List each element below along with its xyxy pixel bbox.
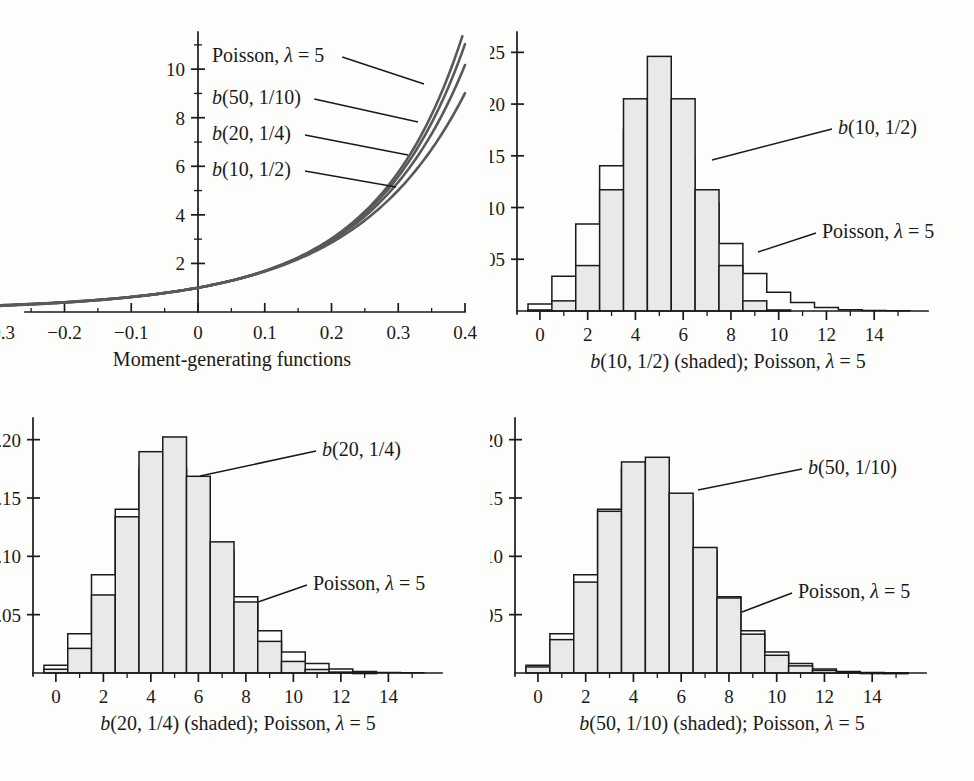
b10-poisson-leader — [758, 233, 816, 252]
b10-y-tick-label: 0.20 — [490, 94, 505, 115]
histogram-bar — [717, 598, 741, 673]
b20-x-tick-label: 0 — [51, 686, 61, 707]
histogram-bar — [669, 493, 693, 673]
b20-x-tick-label: 10 — [284, 686, 303, 707]
histogram-bar — [258, 641, 282, 673]
panel-b20-histogram: 024681012140.050.100.150.20b(20, 1/4)Poi… — [0, 390, 490, 781]
histogram-bar — [789, 666, 813, 673]
b50-x-tick-label: 14 — [863, 686, 883, 707]
histogram-bar — [622, 462, 646, 673]
b50-x-tick-label: 2 — [581, 686, 591, 707]
b10-x-tick-label: 4 — [631, 324, 641, 345]
histogram-bar — [671, 99, 695, 311]
b50-caption: b(50, 1/10) (shaded); Poisson, λ = 5 — [579, 712, 865, 735]
b20-y-tick-label: 0.05 — [0, 605, 21, 626]
b10-x-tick-label: 6 — [678, 324, 688, 345]
b50-poisson-leader — [742, 593, 792, 612]
mgf-x-tick-label: 0.3 — [386, 322, 410, 343]
mgf-series-label: b(10, 1/2) — [212, 158, 291, 181]
mgf-x-tick-label: 0.2 — [320, 322, 344, 343]
mgf-series-label: b(20, 1/4) — [212, 122, 291, 145]
mgf-leader-line — [305, 135, 408, 155]
histogram-bar — [139, 452, 163, 673]
b50-x-tick-label: 4 — [629, 686, 639, 707]
b10-binomial-leader — [712, 129, 832, 160]
mgf-y-tick-label: 4 — [176, 205, 186, 226]
b50-y-tick-label: 0.20 — [490, 430, 503, 451]
panel-moment-generating-functions: −0.4−0.3−0.2−0.100.10.20.30.4246810Poiss… — [0, 0, 490, 390]
b20-poisson-leader — [258, 585, 307, 602]
b50-y-tick-label: 0.05 — [490, 605, 503, 626]
mgf-x-tick-label: 0.4 — [453, 322, 477, 343]
b50-x-tick-label: 8 — [724, 686, 734, 707]
b20-caption: b(20, 1/4) (shaded); Poisson, λ = 5 — [100, 712, 376, 735]
histogram-bar — [187, 476, 211, 673]
b10-y-tick-label: 0.15 — [490, 146, 505, 167]
panel-b50-histogram: 024681012140.050.100.150.20b(50, 1/10)Po… — [490, 390, 974, 781]
b20-binomial-bars — [44, 437, 377, 674]
b20-x-tick-label: 2 — [99, 686, 109, 707]
mgf-x-tick-label: −0.3 — [0, 322, 15, 343]
histogram-bar — [210, 542, 234, 673]
histogram-bar — [719, 266, 743, 311]
mgf-x-tick-label: −0.2 — [47, 322, 81, 343]
b10-y-tick-label: 0.10 — [490, 198, 505, 219]
b20-x-tick-label: 14 — [379, 686, 399, 707]
b50-x-tick-label: 0 — [533, 686, 543, 707]
histogram-bar — [576, 266, 600, 311]
histogram-bar — [598, 511, 622, 673]
mgf-caption: Moment-generating functions — [113, 348, 351, 371]
histogram-bar — [647, 56, 671, 311]
histogram-bar — [600, 190, 624, 311]
histogram-bar — [741, 634, 765, 673]
histogram-bar — [552, 301, 576, 311]
histogram-bar — [574, 582, 598, 673]
histogram-bar — [234, 602, 258, 673]
mgf-series-label: Poisson, λ = 5 — [212, 44, 324, 66]
b50-y-tick-label: 0.15 — [490, 488, 503, 509]
b50-x-tick-label: 10 — [767, 686, 786, 707]
mgf-x-tick-label: 0.1 — [253, 322, 277, 343]
histogram-bar — [115, 517, 139, 673]
b50-x-tick-label: 12 — [815, 686, 834, 707]
histogram-bar — [282, 661, 306, 673]
b20-x-tick-label: 6 — [194, 686, 204, 707]
mgf-x-tick-label: 0 — [193, 322, 203, 343]
b20-plot: 024681012140.050.100.150.20b(20, 1/4)Poi… — [0, 390, 490, 781]
histogram-bar — [693, 547, 717, 673]
b50-x-tick-label: 6 — [676, 686, 686, 707]
b10-x-tick-label: 12 — [817, 324, 836, 345]
histogram-bar — [645, 457, 669, 673]
b10-x-tick-label: 2 — [583, 324, 593, 345]
histogram-bar — [550, 640, 574, 673]
histogram-bar — [163, 437, 187, 673]
histogram-bar — [68, 648, 92, 673]
b10-poisson-label: Poisson, λ = 5 — [822, 220, 934, 242]
mgf-y-tick-label: 2 — [176, 253, 186, 274]
histogram-bar — [695, 190, 719, 311]
figure-root: −0.4−0.3−0.2−0.100.10.20.30.4246810Poiss… — [0, 0, 974, 781]
b10-plot: 024681012140.050.100.150.200.25b(10, 1/2… — [490, 0, 974, 390]
b10-y-tick-label: 0.05 — [490, 249, 505, 270]
b50-binomial-leader — [698, 469, 802, 490]
mgf-leader-line — [314, 99, 418, 122]
b10-y-tick-label: 0.25 — [490, 42, 505, 63]
mgf-plot: −0.4−0.3−0.2−0.100.10.20.30.4246810Poiss… — [0, 0, 490, 390]
b50-binomial-bars — [526, 457, 908, 673]
histogram-bar — [526, 667, 550, 673]
histogram-bar — [743, 301, 767, 311]
histogram-bar — [92, 595, 116, 673]
b20-x-tick-label: 4 — [146, 686, 156, 707]
b50-plot: 024681012140.050.100.150.20b(50, 1/10)Po… — [490, 390, 974, 781]
mgf-y-tick-label: 6 — [176, 156, 186, 177]
mgf-leader-line — [305, 171, 396, 187]
b10-caption: b(10, 1/2) (shaded); Poisson, λ = 5 — [590, 350, 866, 373]
b20-poisson-label: Poisson, λ = 5 — [313, 572, 425, 594]
b10-x-tick-label: 8 — [726, 324, 736, 345]
panel-b10-histogram: 024681012140.050.100.150.200.25b(10, 1/2… — [490, 0, 974, 390]
b20-binomial-leader — [200, 451, 316, 476]
mgf-y-tick-label: 8 — [176, 108, 186, 129]
b50-binomial-label: b(50, 1/10) — [808, 456, 897, 479]
b20-x-tick-label: 8 — [241, 686, 251, 707]
b10-binomial-label: b(10, 1/2) — [838, 116, 917, 139]
